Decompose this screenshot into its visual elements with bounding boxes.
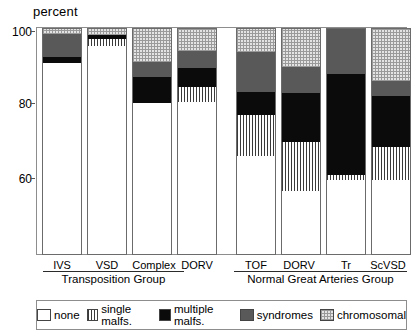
- bar-ivs[interactable]: [42, 28, 82, 255]
- x-label-dorv-transposition: DORV: [177, 259, 217, 271]
- segment-syndromes: [43, 34, 81, 57]
- legend-item-multiple-malfs[interactable]: multiple malfs.: [159, 303, 232, 327]
- group-rule-transposition: [43, 271, 184, 272]
- segment-syndromes: [282, 67, 320, 93]
- x-label-vsd: VSD: [87, 259, 127, 271]
- bar-dorv-transposition[interactable]: [177, 28, 217, 255]
- group-rule-normal-great-arteries: [234, 271, 407, 272]
- segment-multiple-malfs: [372, 96, 410, 147]
- bar-tr[interactable]: [326, 28, 366, 255]
- bar-vsd[interactable]: [87, 28, 127, 255]
- legend-label-single-malfs: single malfs.: [101, 303, 152, 327]
- chromosomal-swatch: [320, 309, 334, 321]
- legend-item-syndromes[interactable]: syndromes: [240, 309, 313, 321]
- segment-none: [88, 46, 126, 254]
- segment-single-malfs: [372, 147, 410, 180]
- syndromes-swatch: [240, 309, 254, 321]
- segment-syndromes: [133, 62, 171, 77]
- legend: none single malfs. multiple malfs. syndr…: [36, 300, 407, 330]
- segment-multiple-malfs: [237, 92, 275, 115]
- segment-multiple-malfs: [282, 93, 320, 142]
- legend-item-none[interactable]: none: [37, 309, 80, 321]
- legend-label-multiple-malfs: multiple malfs.: [174, 303, 233, 327]
- segment-multiple-malfs: [327, 74, 365, 175]
- legend-item-single-malfs[interactable]: single malfs.: [87, 303, 153, 327]
- x-label-ivs: IVS: [42, 259, 82, 271]
- y-tick-mark-60: [30, 178, 35, 179]
- segment-none: [237, 156, 275, 254]
- legend-label-none: none: [54, 309, 80, 321]
- group-label-normal-great-arteries: Normal Great Arteries Group: [234, 273, 407, 285]
- group-label-transposition: Transposition Group: [43, 273, 184, 285]
- segment-none: [282, 191, 320, 254]
- segment-none: [372, 180, 410, 254]
- segment-syndromes: [237, 52, 275, 92]
- segment-chromosomal: [372, 29, 410, 81]
- segment-syndromes: [178, 51, 216, 68]
- segment-chromosomal: [133, 29, 171, 62]
- segment-single-malfs: [88, 39, 126, 46]
- segment-chromosomal: [237, 29, 275, 52]
- x-label-tof: TOF: [236, 259, 276, 271]
- segment-none: [133, 103, 171, 254]
- legend-item-chromosomal[interactable]: chromosomal: [320, 309, 406, 321]
- segment-none: [43, 63, 81, 254]
- none-swatch: [37, 309, 51, 321]
- bar-complex[interactable]: [132, 28, 172, 255]
- bars-layer: [36, 27, 407, 255]
- legend-label-syndromes: syndromes: [257, 309, 313, 321]
- y-tick-label-80: 80: [2, 97, 32, 111]
- x-label-tr: Tr: [326, 259, 366, 271]
- x-label-scvsd: ScVSD: [366, 259, 410, 271]
- bar-scvsd[interactable]: [371, 28, 411, 255]
- y-tick-mark-80: [30, 103, 35, 104]
- x-label-dorv-normal: DORV: [277, 259, 321, 271]
- legend-label-chromosomal: chromosomal: [337, 309, 406, 321]
- bar-dorv-normal[interactable]: [281, 28, 321, 255]
- x-label-complex: Complex: [126, 259, 182, 271]
- segment-single-malfs: [282, 142, 320, 191]
- y-tick-mark-100: [30, 31, 35, 32]
- y-tick-label-60: 60: [2, 172, 32, 186]
- bar-tof[interactable]: [236, 28, 276, 255]
- segment-single-malfs: [237, 115, 275, 156]
- segment-none: [327, 180, 365, 254]
- chart-root: percent 100 80 60: [0, 0, 413, 336]
- segment-none: [178, 102, 216, 254]
- segment-syndromes: [327, 29, 365, 74]
- y-tick-label-100: 100: [2, 25, 32, 39]
- segment-chromosomal: [282, 29, 320, 67]
- multiple-malfs-swatch: [159, 309, 171, 321]
- segment-chromosomal: [178, 29, 216, 51]
- single-malfs-swatch: [87, 309, 99, 321]
- segment-multiple-malfs: [133, 77, 171, 103]
- segment-multiple-malfs: [178, 68, 216, 87]
- segment-syndromes: [372, 81, 410, 96]
- y-axis-title: percent: [33, 4, 78, 19]
- segment-single-malfs: [178, 87, 216, 102]
